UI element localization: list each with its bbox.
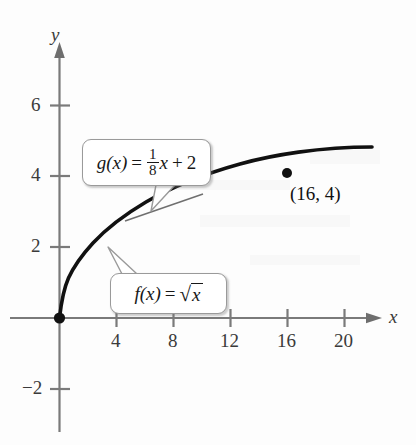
f-lhs: f(x) xyxy=(134,283,160,305)
f-radicand: x xyxy=(191,283,202,306)
math-graph-figure: y x 6 4 2 −2 4 8 12 16 20 (16, 4) g(x) =… xyxy=(0,0,416,445)
point-16-4-label: (16, 4) xyxy=(290,183,341,205)
origin-point-marker xyxy=(54,312,65,323)
y-tick-label-2: 2 xyxy=(31,235,41,257)
x-tick-label-4: 4 xyxy=(111,330,121,352)
g-fraction-numerator: 1 xyxy=(147,147,159,162)
radical-symbol-icon: √ xyxy=(180,284,192,305)
x-axis-label: x xyxy=(389,306,397,328)
point-16-4-marker xyxy=(282,168,292,178)
g-constant: 2 xyxy=(187,152,197,174)
f-equation: f(x) = √ x xyxy=(134,282,202,306)
g-variable: x xyxy=(160,152,168,174)
g-lhs: g(x) xyxy=(97,152,128,174)
g-equals: = xyxy=(127,152,146,174)
g-equation: g(x) = 1 8 x + 2 xyxy=(97,147,196,179)
g-fraction-one-eighth: 1 8 xyxy=(147,147,159,179)
x-tick-label-20: 20 xyxy=(334,330,353,352)
plot-canvas xyxy=(0,0,416,445)
g-plus-sign: + xyxy=(168,152,187,174)
y-tick-label-minus-2: −2 xyxy=(22,377,42,399)
f-function-callout: f(x) = √ x xyxy=(110,273,227,314)
x-tick-label-12: 12 xyxy=(220,330,239,352)
y-axis-label: y xyxy=(51,24,59,46)
g-fraction-denominator: 8 xyxy=(147,162,159,178)
g-function-callout: g(x) = 1 8 x + 2 xyxy=(82,139,211,186)
y-tick-label-4: 4 xyxy=(31,164,41,186)
x-tick-label-16: 16 xyxy=(277,330,296,352)
f-equals: = xyxy=(161,283,180,305)
f-radical: √ x xyxy=(180,282,203,306)
f-callout-tail xyxy=(108,247,137,274)
y-tick-label-6: 6 xyxy=(31,94,41,116)
x-tick-label-8: 8 xyxy=(168,330,178,352)
x-axis-arrowhead xyxy=(366,313,382,323)
